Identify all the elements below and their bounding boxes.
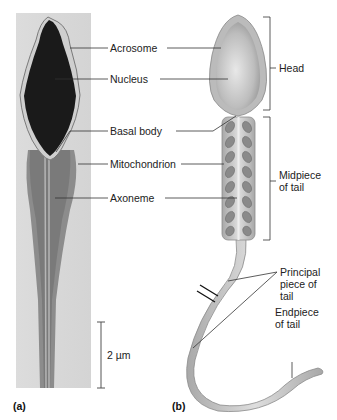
label-endpiece-line1: Endpiece [275,306,319,318]
scale-bar [97,322,105,388]
illustration-panel [187,15,323,412]
panel-label-b: (b) [172,400,185,412]
micrograph-panel [16,13,91,388]
label-principal-line2: piece of [280,278,317,290]
label-midpiece-line1: Midpiece [279,169,321,181]
label-head: Head [279,62,304,74]
panel-label-a: (a) [13,400,26,412]
label-principal-line1: Principal [280,266,320,278]
label-basal-body: Basal body [110,125,162,137]
scale-bar-label: 2 µm [107,349,131,361]
sperm-figure: Acrosome Nucleus Basal body Mitochondrio… [0,0,337,420]
label-endpiece-line2: of tail [275,318,300,330]
label-nucleus: Nucleus [110,73,148,85]
label-midpiece-line2: of tail [279,181,304,193]
label-principal-line3: tail [280,290,293,302]
label-axoneme: Axoneme [110,192,154,204]
label-mitochondrion: Mitochondrion [110,158,176,170]
label-acrosome: Acrosome [110,42,157,54]
